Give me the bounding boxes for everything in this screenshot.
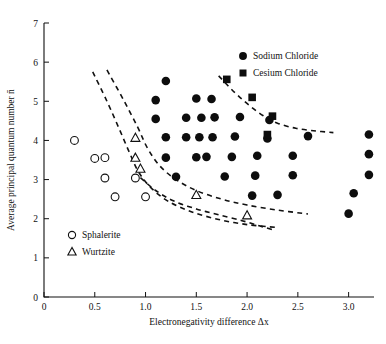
- y-tick-label: 1: [33, 253, 38, 263]
- data-point-filled-circle: [365, 171, 374, 180]
- data-point-filled-circle: [182, 113, 191, 122]
- data-point-filled-circle: [192, 153, 201, 162]
- y-axis-label: Average principal quantum number n̄: [6, 89, 16, 231]
- legend-label: Sphalerite: [82, 230, 121, 240]
- series-wurtzite: [131, 133, 252, 219]
- data-point-filled-circle: [288, 151, 297, 160]
- x-tick-label: 3.0: [343, 302, 355, 312]
- boundary-lower-boundary: [140, 178, 272, 230]
- scatter-plot-canvas: 00.51.01.52.02.53.0 01234567 Electronega…: [0, 0, 386, 344]
- x-axis-label: Electronegativity difference Δx: [149, 317, 269, 327]
- data-point-filled-circle: [228, 153, 237, 162]
- y-tick-label: 3: [33, 175, 38, 185]
- x-axis-ticks: 00.51.01.52.02.53.0: [42, 292, 355, 312]
- data-points: [71, 76, 374, 219]
- data-point-filled-circle: [248, 191, 257, 200]
- data-point-filled-circle: [251, 171, 260, 180]
- data-point-open-triangle: [131, 133, 140, 141]
- y-axis-ticks: 01234567: [33, 19, 49, 303]
- data-point-filled-circle: [151, 115, 160, 124]
- y-tick-label: 7: [33, 19, 38, 29]
- data-point-filled-circle: [208, 133, 217, 142]
- boundary-rocksalt-cesiumchloride-divider: [219, 76, 334, 133]
- data-point-filled-circle: [365, 130, 374, 139]
- data-point-filled-square: [264, 131, 272, 139]
- legend-marker-open-triangle: [68, 247, 76, 255]
- legend-secondary-item: Wurtzite: [68, 247, 115, 257]
- data-point-filled-circle: [192, 94, 201, 103]
- data-point-open-circle: [71, 137, 79, 145]
- data-point-filled-circle: [231, 132, 240, 141]
- data-point-filled-circle: [210, 113, 219, 122]
- legend-secondary-item: Sphalerite: [68, 230, 120, 240]
- y-tick-label: 2: [33, 214, 38, 224]
- data-point-filled-square: [223, 76, 231, 84]
- data-point-filled-square: [269, 112, 277, 120]
- chart-figure: 00.51.01.52.02.53.0 01234567 Electronega…: [0, 0, 386, 344]
- data-point-filled-circle: [182, 133, 191, 142]
- data-point-filled-circle: [220, 172, 229, 181]
- legend-label: Sodium Chloride: [253, 51, 318, 61]
- x-tick-label: 0.5: [89, 302, 101, 312]
- data-point-open-circle: [101, 174, 109, 182]
- x-tick-label: 1.5: [190, 302, 202, 312]
- series-cesium-chloride: [223, 76, 276, 139]
- legend-marker-filled-square: [240, 70, 247, 77]
- data-point-filled-circle: [202, 153, 211, 162]
- legend-primary-item: Cesium Chloride: [240, 68, 318, 78]
- data-point-filled-square: [248, 94, 256, 102]
- data-point-filled-circle: [253, 151, 262, 160]
- data-point-filled-circle: [195, 133, 204, 142]
- y-tick-label: 5: [33, 97, 38, 107]
- phase-boundaries: [93, 70, 334, 230]
- y-tick-label: 0: [33, 293, 38, 303]
- legend-label: Wurtzite: [82, 247, 115, 257]
- legend-marker-filled-circle: [239, 52, 247, 60]
- data-point-filled-circle: [349, 189, 358, 198]
- data-point-open-circle: [91, 155, 99, 163]
- series-sodium-chloride: [151, 77, 373, 218]
- legend-primary: Sodium ChlorideCesium Chloride: [239, 51, 318, 78]
- y-tick-label: 4: [33, 136, 38, 146]
- data-point-filled-circle: [344, 209, 353, 218]
- data-point-open-circle: [111, 193, 119, 201]
- data-point-filled-circle: [162, 133, 171, 142]
- data-point-filled-circle: [207, 95, 216, 104]
- legend-primary-item: Sodium Chloride: [239, 51, 318, 61]
- legend-marker-open-circle: [68, 231, 75, 238]
- data-point-open-circle: [142, 193, 150, 201]
- data-point-filled-circle: [236, 113, 245, 122]
- x-tick-label: 2.0: [241, 302, 253, 312]
- data-point-open-circle: [101, 154, 109, 162]
- data-point-filled-circle: [162, 77, 171, 86]
- data-point-filled-circle: [197, 113, 206, 122]
- data-point-filled-circle: [162, 153, 171, 162]
- y-tick-label: 6: [33, 58, 38, 68]
- legend-secondary: SphaleriteWurtzite: [68, 230, 121, 257]
- x-tick-label: 1.0: [140, 302, 152, 312]
- x-tick-label: 0: [42, 302, 47, 312]
- legend-label: Cesium Chloride: [253, 68, 318, 78]
- data-point-filled-circle: [304, 132, 313, 141]
- data-point-filled-circle: [288, 171, 297, 180]
- data-point-filled-circle: [273, 191, 282, 200]
- data-point-filled-circle: [365, 150, 374, 159]
- data-point-filled-circle: [151, 96, 160, 105]
- data-point-filled-circle: [172, 173, 181, 182]
- data-point-open-circle: [131, 174, 139, 182]
- data-point-open-triangle: [243, 211, 252, 219]
- x-tick-label: 2.5: [292, 302, 304, 312]
